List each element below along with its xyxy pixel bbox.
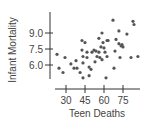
data-point <box>80 39 83 42</box>
data-point <box>114 38 117 41</box>
data-point <box>83 41 86 44</box>
y-tick-label: 9.0 <box>29 28 43 39</box>
data-point <box>97 51 100 54</box>
data-point <box>97 37 100 40</box>
data-point <box>105 55 108 58</box>
x-tick-label: 60 <box>98 95 110 106</box>
data-point <box>81 76 84 79</box>
data-point <box>80 49 83 52</box>
data-point <box>72 67 75 70</box>
y-tick-label: 7.5 <box>29 44 43 55</box>
data-point <box>85 51 88 54</box>
x-axis-title: Teen Deaths <box>69 108 125 119</box>
data-point <box>132 23 135 26</box>
data-point <box>88 74 91 77</box>
data-point <box>61 71 64 74</box>
data-point <box>125 33 128 36</box>
data-points <box>55 19 139 80</box>
y-tick-label: 6.0 <box>29 60 43 71</box>
x-axis: 30456075 <box>55 85 140 106</box>
data-point <box>85 56 88 59</box>
data-point <box>81 61 84 64</box>
data-point <box>75 67 78 70</box>
data-point <box>131 20 134 23</box>
data-point <box>112 67 115 70</box>
data-point <box>121 45 124 48</box>
data-point <box>93 60 96 63</box>
data-point <box>100 31 103 34</box>
data-point <box>69 62 72 65</box>
scatter-chart: 6.07.59.0 30456075 Infant Mortality Teen… <box>0 0 154 127</box>
data-point <box>63 56 66 59</box>
data-point <box>55 53 58 56</box>
x-tick-label: 45 <box>79 95 91 106</box>
data-point <box>89 68 92 71</box>
data-point <box>95 55 98 58</box>
data-point <box>107 39 110 42</box>
data-point <box>74 59 77 62</box>
data-point <box>99 45 102 48</box>
x-tick-label: 75 <box>117 95 129 106</box>
data-point <box>103 51 106 54</box>
data-point <box>118 56 121 59</box>
data-point <box>102 46 105 49</box>
data-point <box>136 55 139 58</box>
data-point <box>111 19 114 22</box>
data-point <box>100 58 103 61</box>
data-point <box>117 29 120 32</box>
data-point <box>113 50 116 53</box>
data-point <box>104 76 107 79</box>
x-tick-label: 30 <box>60 95 72 106</box>
data-point <box>57 67 60 70</box>
data-point <box>79 71 82 74</box>
data-point <box>129 56 132 59</box>
data-point <box>101 41 104 44</box>
data-point <box>81 55 84 58</box>
data-point <box>94 50 97 53</box>
y-axis: 6.07.59.0 <box>29 12 53 79</box>
y-axis-title: Infant Mortality <box>7 17 18 83</box>
